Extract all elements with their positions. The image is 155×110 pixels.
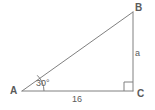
side-label-bc: a — [135, 49, 140, 58]
angle-label-a: 30° — [36, 79, 50, 88]
vertex-label-c: C — [137, 89, 144, 99]
geometry-diagram: A B C 30° a 16 — [0, 0, 155, 110]
vertex-label-b: B — [135, 3, 142, 13]
side-label-ac: 16 — [72, 95, 82, 104]
vertex-label-a: A — [10, 86, 17, 96]
right-angle-marker-c — [124, 82, 133, 91]
